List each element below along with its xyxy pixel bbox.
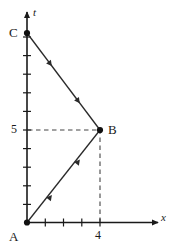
point-label-b: B bbox=[108, 123, 117, 136]
segment-a-to-b bbox=[27, 130, 100, 223]
plot-canvas bbox=[0, 0, 174, 246]
y-tick-label-5: 5 bbox=[11, 123, 17, 135]
segment-a-to-b-arrowheads bbox=[46, 158, 82, 202]
t-axis-label: t bbox=[33, 7, 36, 18]
point-label-a: A bbox=[9, 230, 18, 243]
point-B bbox=[97, 127, 103, 133]
point-A bbox=[24, 219, 30, 225]
x-axis-label: x bbox=[161, 212, 166, 223]
coordinate-diagram: C B A 5 4 t x bbox=[0, 0, 174, 246]
x-tick-label-4: 4 bbox=[95, 229, 101, 241]
point-C bbox=[24, 30, 30, 36]
point-label-c: C bbox=[9, 26, 18, 39]
segment-c-to-b bbox=[27, 33, 100, 130]
